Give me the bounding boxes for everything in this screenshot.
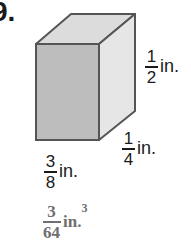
depth-label: 1 4 in. <box>122 130 156 168</box>
prism-front-face <box>36 44 99 140</box>
height-fraction: 1 2 <box>145 48 158 86</box>
answer-fraction: 3 64 <box>42 203 61 241</box>
rectangular-prism-figure <box>0 0 191 251</box>
answer-numerator: 3 <box>46 203 57 220</box>
width-label: 3 8 in. <box>44 153 78 191</box>
answer-unit: in. <box>63 212 81 231</box>
width-unit: in. <box>59 161 78 181</box>
depth-unit: in. <box>137 138 156 158</box>
height-denominator: 2 <box>146 69 157 86</box>
answer-denominator: 64 <box>42 224 61 241</box>
width-numerator: 3 <box>45 153 56 170</box>
height-label: 1 2 in. <box>145 48 179 86</box>
depth-fraction: 1 4 <box>122 130 135 168</box>
answer-exponent: 3 <box>81 201 87 215</box>
answer-volume: 3 64 in.3 <box>42 203 87 241</box>
width-fraction: 3 8 <box>44 153 57 191</box>
height-unit: in. <box>160 56 179 76</box>
depth-numerator: 1 <box>123 130 134 147</box>
height-numerator: 1 <box>146 48 157 65</box>
depth-denominator: 4 <box>123 151 134 168</box>
width-denominator: 8 <box>45 174 56 191</box>
